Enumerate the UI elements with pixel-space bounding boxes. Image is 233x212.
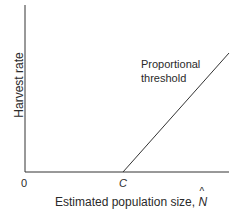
y-axis-label: Harvest rate [12, 40, 26, 130]
x-axis-label-text: Estimated population size, [55, 195, 198, 209]
n-hat-symbol: N^ [198, 195, 207, 209]
n-symbol: N [198, 195, 207, 209]
proportional-threshold-line [123, 53, 229, 172]
chart-canvas [0, 0, 233, 212]
x-axis-label: Estimated population size, N^ [55, 195, 207, 209]
hat-icon: ^ [199, 186, 204, 197]
x-tick-c: C [119, 177, 127, 189]
annotation-line2: threshold [141, 72, 186, 84]
annotation-line1: Proportional [141, 58, 200, 70]
x-tick-zero: 0 [21, 177, 27, 189]
